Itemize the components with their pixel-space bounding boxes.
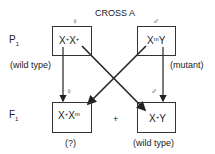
f1-male-genotype: X+Y — [149, 114, 166, 124]
female-symbol-icon: ♀ — [66, 87, 72, 97]
f1-female-box: X+Xm — [52, 102, 92, 133]
plus-sign: + — [113, 114, 118, 124]
cross-a-diagram: CROSS A ♀ ♂ P1 X+X+ XmY (wild type) (mut… — [0, 0, 215, 154]
cross-title: CROSS A — [95, 8, 135, 18]
f1-female-genotype: X+Xm — [58, 111, 80, 121]
p1-male-genotype: XmY — [147, 36, 165, 46]
p1-male-box: XmY — [137, 26, 176, 56]
p1-female-genotype: X+X+ — [59, 36, 79, 46]
cross-arrows — [0, 0, 215, 154]
p1-label: P1 — [9, 35, 19, 49]
f1-label: F1 — [9, 110, 18, 124]
f1-female-phenotype: (?) — [65, 138, 76, 148]
male-symbol-icon: ♂ — [151, 87, 157, 97]
p1-female-box: X+X+ — [52, 26, 92, 56]
f1-male-box: X+Y — [137, 102, 176, 133]
p1-female-phenotype: (wild type) — [10, 60, 51, 70]
p1-male-phenotype: (mutant) — [170, 60, 204, 70]
f1-male-phenotype: (wild type) — [133, 138, 174, 148]
